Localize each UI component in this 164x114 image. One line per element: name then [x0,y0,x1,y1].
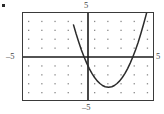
axis-tick-label-top: 5 [84,1,88,10]
axis-tick-label-bottom: –5 [82,103,91,112]
axis-tick-label-left: –5 [6,52,15,61]
plot-frame [22,12,154,101]
graph-screenshot: 5 –5 –5 5 [0,0,164,114]
axis-tick-label-right: 5 [156,52,160,61]
bullet-mark-icon [2,4,5,7]
